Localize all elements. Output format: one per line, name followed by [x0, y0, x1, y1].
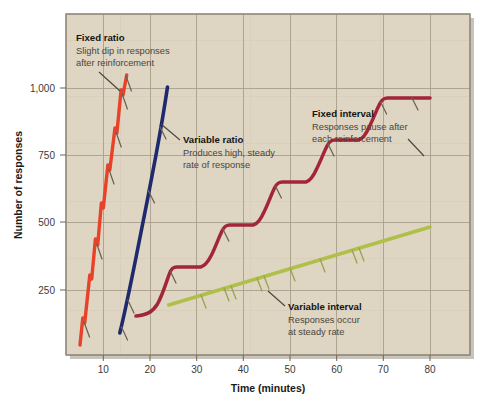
annotation-variable-ratio-title: Variable ratio [183, 134, 243, 145]
annotation-fixed-ratio-line1: Slight dip in responses [76, 46, 170, 56]
annotation-fixed-ratio-line2: after reinforcement [76, 58, 154, 68]
x-tick-label-40: 40 [238, 364, 250, 375]
annotation-variable-interval-line1: Responses occur [288, 315, 360, 325]
x-tick-label-20: 20 [144, 364, 156, 375]
y-tick-label-500: 500 [38, 217, 55, 228]
x-axis-tick-labels: 10 20 30 40 50 60 70 80 [98, 364, 436, 375]
x-tick-label-80: 80 [424, 364, 436, 375]
annotation-fixed-interval-title: Fixed interval [312, 108, 374, 119]
annotation-fixed-ratio-title: Fixed ratio [76, 32, 125, 43]
reinforcement-schedules-figure: Fixed ratio Slight dip in responses afte… [0, 0, 498, 406]
annotation-fixed-interval-line1: Responses pause after [312, 122, 408, 132]
annotation-variable-ratio-line2: rate of response [183, 160, 250, 170]
annotation-fixed-interval-line2: each reinforcement [312, 134, 392, 144]
x-tick-label-60: 60 [331, 364, 343, 375]
x-tick-label-70: 70 [378, 364, 390, 375]
x-tick-label-10: 10 [98, 364, 110, 375]
y-tick-label-1000: 1,000 [30, 83, 55, 94]
x-tick-label-30: 30 [191, 364, 203, 375]
y-tick-label-750: 750 [38, 150, 55, 161]
x-axis-title: Time (minutes) [231, 382, 305, 394]
chart-svg: Fixed ratio Slight dip in responses afte… [0, 0, 498, 406]
y-axis-tick-labels: 1,000 750 500 250 [30, 83, 55, 296]
y-axis-title: Number of responses [12, 131, 24, 239]
y-tick-label-250: 250 [38, 285, 55, 296]
x-tick-label-50: 50 [284, 364, 296, 375]
y-axis-ticks [60, 88, 66, 290]
annotation-variable-interval-line2: at steady rate [288, 327, 344, 337]
annotation-variable-interval-title: Variable interval [288, 301, 362, 312]
annotation-variable-ratio-line1: Produces high, steady [183, 148, 275, 158]
